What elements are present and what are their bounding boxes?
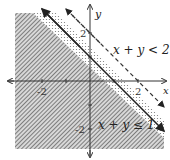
- tick-y-neg2: -2: [75, 124, 85, 135]
- tick-x-pos2: 2: [135, 86, 141, 97]
- label-x-plus-y-lt-2: x + y < 2: [113, 43, 170, 57]
- x-axis-label: x: [163, 85, 169, 96]
- tick-x-neg2: -2: [37, 86, 47, 97]
- tick-y-pos2: 2: [80, 28, 86, 39]
- y-axis-label: y: [94, 8, 102, 21]
- inequality-graph: -2 2 2 -2 x y x + y < 2 x + y ≤ 1: [0, 0, 170, 160]
- label-x-plus-y-le-1: x + y ≤ 1: [98, 118, 155, 132]
